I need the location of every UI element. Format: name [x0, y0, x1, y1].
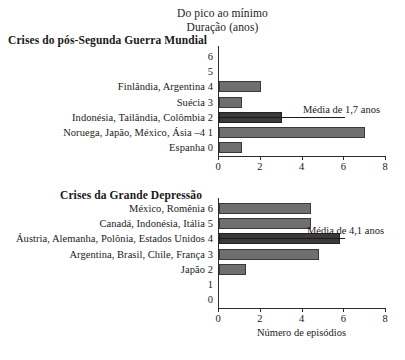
y-tick-label: 6: [202, 50, 213, 63]
x-tick-mark: [302, 308, 303, 312]
chart-row: 6: [0, 50, 405, 63]
chart-row: México, Romênia6: [0, 202, 405, 215]
x-tick-label: 4: [292, 313, 312, 324]
x-tick-mark: [385, 156, 386, 160]
y-tick-label: 5: [202, 65, 213, 78]
bar: [219, 97, 242, 108]
row-category-label: Indonésia, Tailândia, Colômbia: [72, 111, 205, 124]
chart-row: 5: [0, 65, 405, 78]
x-axis-title: Número de episódios: [202, 327, 402, 338]
x-tick-mark: [385, 308, 386, 312]
y-tick-label: 4: [202, 232, 213, 245]
chart-postwar-crises: 65Finlândia, Argentina4Suécia3Indonésia,…: [0, 46, 405, 174]
average-line-top: [218, 117, 345, 118]
x-tick-mark: [260, 156, 261, 160]
bar: [219, 249, 319, 260]
x-tick-mark: [218, 308, 219, 312]
x-tick-label: 6: [333, 161, 353, 172]
average-label-top: Média de 1,7 anos: [303, 104, 380, 115]
y-tick-label: 5: [202, 217, 213, 230]
chart-row: 0: [0, 293, 405, 306]
chart-row: Japão2: [0, 263, 405, 276]
x-tick-mark: [343, 156, 344, 160]
y-tick-label: 0: [202, 293, 213, 306]
chart-page: Do pico ao mínimo Duração (anos) Crises …: [0, 0, 405, 360]
chart-row: Finlândia, Argentina4: [0, 80, 405, 93]
x-tick-mark: [260, 308, 261, 312]
bar: [219, 203, 311, 214]
x-tick-label: 0: [208, 313, 228, 324]
y-tick-label: 2: [202, 111, 213, 124]
panel-title-postwar: Crises do pós-Segunda Guerra Mundial: [8, 34, 207, 46]
bar: [219, 264, 246, 275]
header-line-1: Do pico ao mínimo: [0, 6, 405, 20]
y-tick-label: 6: [202, 202, 213, 215]
y-tick-label: 4: [202, 80, 213, 93]
x-tick-label: 6: [333, 313, 353, 324]
x-tick-label: 2: [250, 161, 270, 172]
average-label-bottom: Média de 4,1 anos: [307, 225, 384, 236]
x-tick-label: 4: [292, 161, 312, 172]
y-tick-label: 3: [202, 96, 213, 109]
row-category-label: México, Romênia: [129, 202, 205, 215]
x-tick-mark: [302, 156, 303, 160]
row-category-label: Suécia: [177, 96, 205, 109]
chart-row: Argentina, Brasil, Chile, França3: [0, 248, 405, 261]
header-line-2: Duração (anos): [0, 20, 405, 34]
chart-row: 1: [0, 278, 405, 291]
bar: [219, 127, 365, 138]
row-category-label: Noruega, Japão, México, Ásia –4: [63, 126, 205, 139]
bar: [219, 218, 311, 229]
y-tick-label: 1: [202, 278, 213, 291]
chart-row: Espanha0: [0, 141, 405, 154]
chart-row: Noruega, Japão, México, Ásia –41: [0, 126, 405, 139]
chart-depression-crises: México, Romênia6Canadá, Indonésia, Itáli…: [0, 198, 405, 326]
x-tick-mark: [218, 156, 219, 160]
row-category-label: Áustria, Alemanha, Polônia, Estados Unid…: [16, 232, 205, 245]
x-tick-label: 2: [250, 313, 270, 324]
x-tick-mark: [343, 308, 344, 312]
row-category-label: Finlândia, Argentina: [118, 80, 205, 93]
row-category-label: Argentina, Brasil, Chile, França: [69, 248, 205, 261]
row-category-label: Canadá, Indonésia, Itália: [99, 217, 205, 230]
average-line-bottom: [218, 238, 345, 239]
y-tick-label: 0: [202, 141, 213, 154]
y-tick-label: 1: [202, 126, 213, 139]
x-tick-label: 0: [208, 161, 228, 172]
y-tick-label: 2: [202, 263, 213, 276]
y-tick-label: 3: [202, 248, 213, 261]
x-tick-label: 8: [375, 313, 395, 324]
bar: [219, 81, 261, 92]
row-category-label: Espanha: [169, 141, 205, 154]
chart-header: Do pico ao mínimo Duração (anos): [0, 6, 405, 35]
bar: [219, 142, 242, 153]
x-tick-label: 8: [375, 161, 395, 172]
